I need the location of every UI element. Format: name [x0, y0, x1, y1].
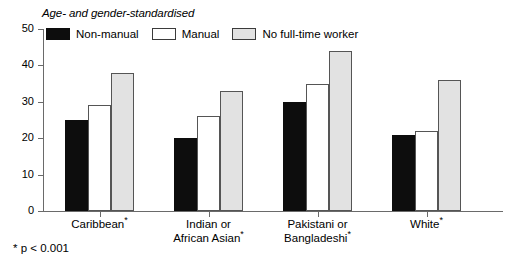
y-axis-tick-0 [38, 211, 43, 212]
y-axis-tick-30 [38, 102, 43, 103]
bar-1-2 [220, 91, 243, 211]
y-axis-tick-50 [38, 29, 43, 30]
y-axis-tick-20 [38, 138, 43, 139]
y-axis-tick-labels: 01020304050 [8, 29, 34, 211]
y-axis-tick-10 [38, 175, 43, 176]
x-axis-tick-1 [209, 211, 210, 217]
bar-0-0 [65, 120, 88, 211]
x-axis-label-3: White* [357, 218, 497, 232]
bar-1-0 [174, 138, 197, 211]
bar-3-2 [438, 80, 461, 211]
bar-0-2 [111, 73, 134, 211]
x-axis-line [43, 211, 503, 212]
y-axis-tick-label-50: 50 [8, 23, 34, 34]
y-axis-line [43, 29, 44, 211]
x-axis-tick-2 [318, 211, 319, 217]
bar-2-0 [283, 102, 306, 211]
x-axis-tick-3 [427, 211, 428, 217]
bar-0-1 [88, 105, 111, 211]
bar-3-1 [415, 131, 438, 211]
y-axis-tick-40 [38, 65, 43, 66]
y-axis-tick-label-20: 20 [8, 132, 34, 143]
x-axis-tick-0 [100, 211, 101, 217]
footnote-significance: * p < 0.001 [13, 242, 69, 254]
y-axis-tick-label-40: 40 [8, 59, 34, 70]
bar-1-1 [197, 116, 220, 211]
y-axis-tick-label-30: 30 [8, 96, 34, 107]
y-axis-tick-label-0: 0 [8, 205, 34, 216]
bar-2-2 [329, 51, 352, 211]
bar-3-0 [392, 135, 415, 211]
plot-area [43, 29, 503, 211]
bar-2-1 [306, 84, 329, 211]
chart-title: Age- and gender-standardised [42, 7, 194, 19]
chart-figure: Age- and gender-standardised Non-manual … [0, 0, 510, 266]
y-axis-tick-label-10: 10 [8, 169, 34, 180]
